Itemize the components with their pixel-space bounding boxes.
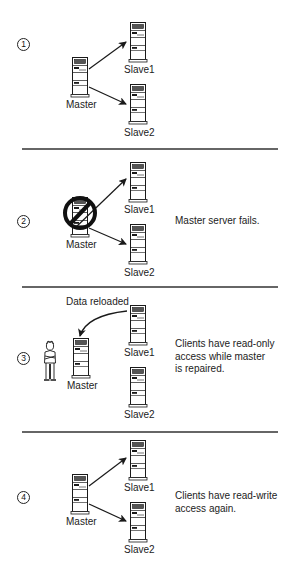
arrow-master-to-slave1 xyxy=(89,42,126,69)
data-reloaded-annotation: Data reloaded xyxy=(66,296,129,307)
slave2-label: Slave2 xyxy=(124,544,155,555)
slave2-label: Slave2 xyxy=(124,127,155,138)
master-server-icon xyxy=(71,475,89,515)
slave2-server-icon xyxy=(129,368,147,408)
master-server-icon xyxy=(71,58,89,98)
step-4-description: Clients have read-write access again. xyxy=(175,490,295,515)
slave1-label: Slave1 xyxy=(124,347,155,358)
slave2-server-icon xyxy=(129,85,147,125)
master-label: Master xyxy=(66,516,97,527)
step-2-badge: 2 xyxy=(17,215,30,228)
step-1-badge: 1 xyxy=(17,38,30,51)
step-3-badge: 3 xyxy=(17,352,30,365)
description-line: Clients have read-only xyxy=(175,338,295,351)
slave1-label: Slave1 xyxy=(124,64,155,75)
description-line: access again. xyxy=(175,503,295,516)
arrow-master-to-slave1 xyxy=(89,458,126,486)
slave2-server-icon xyxy=(129,225,147,265)
slave1-label: Slave1 xyxy=(124,482,155,493)
slave1-server-icon xyxy=(129,441,147,481)
description-line: Clients have read-write xyxy=(175,490,295,503)
slave2-label: Slave2 xyxy=(124,267,155,278)
slave2-label: Slave2 xyxy=(124,409,155,420)
description-line: access while master xyxy=(175,351,295,364)
slave1-server-icon xyxy=(129,163,147,203)
master-server-icon xyxy=(72,339,90,379)
step-2-description: Master server fails. xyxy=(175,215,295,228)
master-label: Master xyxy=(67,380,98,391)
step-3-description: Clients have read-only access while mast… xyxy=(175,338,295,376)
slave1-server-icon xyxy=(129,23,147,63)
slave1-label: Slave1 xyxy=(124,204,155,215)
slave2-server-icon xyxy=(129,503,147,543)
master-label: Master xyxy=(66,239,97,250)
failover-diagram: 1 Master Slave1 Slave2 2 Master Slave1 S… xyxy=(0,0,304,576)
slave1-server-icon xyxy=(129,306,147,346)
arrow-data-reloaded xyxy=(80,311,127,336)
description-line: is repaired. xyxy=(175,363,295,376)
master-label: Master xyxy=(66,99,97,110)
step-4-badge: 4 xyxy=(17,491,30,504)
technician-icon xyxy=(44,341,56,380)
